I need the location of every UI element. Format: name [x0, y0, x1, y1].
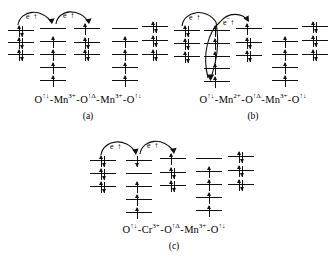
energy-level [204, 56, 230, 57]
energy-level [236, 28, 262, 29]
panel-a-electron-label-1: e−↑ [26, 10, 37, 21]
energy-level [228, 184, 254, 185]
energy-level [196, 184, 222, 185]
energy-level [160, 172, 186, 173]
energy-level [272, 54, 298, 55]
panel-b-formula: O↑↓-Mn2+-O↑Δ-Mn3+-O↑↓ [172, 93, 334, 105]
energy-level [40, 41, 66, 42]
panel-a-formula: O↑↓-Mn3+-O↑Δ-Mn3+-O↑↓ [4, 93, 172, 105]
energy-level [272, 41, 298, 42]
panel-b-electron-label-2: e−↑ [223, 16, 234, 27]
energy-level [302, 54, 328, 55]
panel-c: e−↑ e−↑ [84, 130, 264, 258]
energy-level [302, 26, 328, 27]
energy-level [272, 67, 298, 68]
panel-b-transfer-arcs: e−↑ e−↑ [172, 2, 334, 88]
energy-level [40, 54, 66, 55]
energy-level [204, 30, 230, 31]
energy-level [142, 54, 168, 55]
panel-c-level-diagram: e−↑ e−↑ [84, 130, 264, 216]
energy-level [126, 173, 152, 174]
energy-level [160, 185, 186, 186]
energy-level [112, 28, 138, 29]
energy-level [126, 199, 152, 200]
energy-level [8, 42, 34, 43]
energy-level [90, 173, 116, 174]
energy-level [74, 54, 100, 55]
energy-level [174, 43, 200, 44]
energy-level [90, 160, 116, 161]
energy-level [228, 156, 254, 157]
panel-a: e−↑ e−↑ [4, 2, 172, 126]
energy-level [112, 67, 138, 68]
energy-level [174, 30, 200, 31]
panel-a-level-diagram: e−↑ e−↑ [4, 2, 172, 88]
panel-c-electron-label-2: e−↑ [147, 139, 158, 150]
energy-level [196, 158, 222, 159]
figure-root: e−↑ e−↑ [0, 0, 335, 261]
energy-level [196, 197, 222, 198]
panel-b: e−↑ e−↑ [172, 2, 334, 126]
energy-level [74, 42, 100, 43]
energy-level [272, 80, 298, 81]
panel-c-formula: O↑↓-Cr3+-O↑Δ-Mn3+-O↑↓ [84, 223, 264, 235]
energy-level [196, 210, 222, 211]
energy-level [272, 28, 298, 29]
panel-a-electron-label-2: e−↑ [63, 9, 74, 20]
energy-level [8, 30, 34, 31]
panel-b-label: (b) [172, 112, 334, 122]
energy-level [40, 28, 66, 29]
energy-level [228, 170, 254, 171]
panel-b-level-diagram: e−↑ e−↑ [172, 2, 334, 88]
energy-level [126, 186, 152, 187]
energy-level [112, 54, 138, 55]
energy-level [142, 26, 168, 27]
energy-level [160, 158, 186, 159]
energy-level [112, 41, 138, 42]
energy-level [236, 55, 262, 56]
panel-a-label: (a) [4, 112, 172, 122]
energy-level [302, 40, 328, 41]
energy-level [40, 67, 66, 68]
panel-c-label: (c) [84, 242, 264, 252]
energy-level [204, 43, 230, 44]
energy-level [112, 80, 138, 81]
energy-level [40, 80, 66, 81]
panel-c-electron-label-1: e−↑ [110, 140, 121, 151]
panel-b-electron-label-1: e−↑ [189, 11, 200, 22]
energy-level [126, 212, 152, 213]
energy-level [142, 40, 168, 41]
energy-level [204, 68, 230, 69]
energy-level [126, 160, 152, 161]
energy-level [196, 171, 222, 172]
energy-level [174, 56, 200, 57]
energy-level [204, 81, 230, 82]
energy-level [8, 54, 34, 55]
energy-level [74, 28, 100, 29]
energy-level [90, 186, 116, 187]
energy-level [236, 42, 262, 43]
